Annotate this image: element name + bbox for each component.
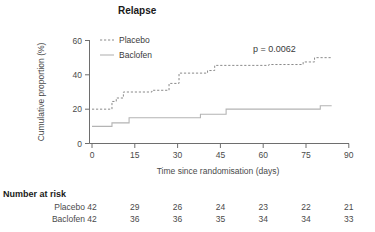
risk-cell: 23 (258, 202, 268, 212)
y-tick-0: 0 (77, 139, 82, 149)
risk-cell: 36 (130, 214, 140, 224)
risk-cell: 29 (130, 202, 140, 212)
x-tick-90: 90 (344, 150, 354, 160)
x-axis-label: Time since randomisation (days) (157, 166, 280, 176)
y-axis: 0 20 40 60 (73, 36, 90, 149)
x-tick-75: 75 (301, 150, 311, 160)
y-tick-60: 60 (73, 36, 83, 46)
x-tick-30: 30 (173, 150, 183, 160)
risk-row-baclofen: Baclofen 42 36 36 35 34 34 33 (52, 214, 354, 224)
risk-cell: 21 (344, 202, 354, 212)
risk-cell: 33 (344, 214, 354, 224)
chart-title: Relapse (118, 5, 157, 16)
x-axis: 0 15 30 45 60 75 90 (90, 144, 354, 161)
x-tick-15: 15 (130, 150, 140, 160)
risk-cell: 34 (258, 214, 268, 224)
risk-cell: 35 (216, 214, 226, 224)
p-value-annotation: p = 0.0062 (253, 44, 296, 54)
risk-cell: 26 (173, 202, 183, 212)
legend-label-placebo: Placebo (119, 35, 150, 45)
risk-table-heading: Number at risk (3, 189, 67, 199)
relapse-kaplan-meier-figure: Relapse Cumulative proportion (%) 0 20 4… (0, 0, 375, 232)
risk-cell: 22 (301, 202, 311, 212)
y-tick-20: 20 (73, 104, 83, 114)
curve-placebo (92, 58, 332, 110)
legend-label-baclofen: Baclofen (119, 50, 152, 60)
y-axis-label: Cumulative proportion (%) (36, 42, 46, 141)
curve-baclofen (92, 106, 332, 127)
x-tick-60: 60 (258, 150, 268, 160)
risk-cell: 42 (87, 202, 97, 212)
risk-cell: 36 (173, 214, 183, 224)
risk-cell: 24 (216, 202, 226, 212)
risk-row-label-baclofen: Baclofen (52, 214, 85, 224)
risk-cell: 42 (87, 214, 97, 224)
risk-row-placebo: Placebo 42 29 26 24 23 22 21 (54, 202, 354, 212)
y-tick-40: 40 (73, 70, 83, 80)
legend: Placebo Baclofen (100, 35, 152, 60)
risk-row-label-placebo: Placebo (54, 202, 85, 212)
x-tick-45: 45 (216, 150, 226, 160)
risk-cell: 34 (301, 214, 311, 224)
x-tick-0: 0 (90, 150, 95, 160)
